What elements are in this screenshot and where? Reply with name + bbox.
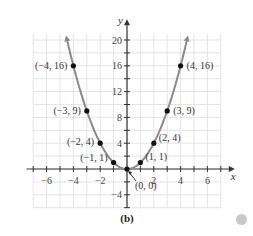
x-tick-label: 6 (205, 175, 210, 186)
curve-arrow-icon (184, 35, 190, 42)
data-point (151, 141, 156, 146)
y-tick-label: 20 (112, 35, 122, 46)
data-point (84, 108, 89, 113)
point-label: (3, 9) (173, 105, 195, 117)
x-tick-label: 4 (178, 175, 183, 186)
point-label: (−4, 16) (35, 60, 67, 72)
figure-caption: (b) (120, 212, 134, 225)
x-axis-label: x (230, 170, 236, 182)
y-axis-arrow-icon (124, 19, 130, 25)
point-label: (−1, 1) (80, 152, 107, 164)
point-label: (−3, 9) (53, 105, 80, 117)
data-point (165, 108, 170, 113)
point-label: (2, 4) (159, 132, 181, 144)
x-tick-label: −6 (41, 175, 52, 186)
y-tick-label: 16 (112, 60, 122, 71)
y-axis-label: y (117, 14, 123, 26)
point-label: (−2, 4) (67, 136, 94, 148)
data-point (98, 141, 103, 146)
indicator-dot (236, 214, 247, 225)
data-point (178, 63, 183, 68)
x-tick-label: −4 (68, 175, 79, 186)
y-tick-label: 4 (117, 138, 122, 149)
data-point (124, 166, 129, 171)
data-point (111, 160, 116, 165)
x-tick-label: −2 (95, 175, 106, 186)
y-tick-label: 8 (117, 112, 122, 123)
parabola-chart: xy−6−4−2246−448121620(−4, 16)(−3, 9)(−2,… (0, 0, 253, 236)
point-label: (1, 1) (145, 151, 167, 163)
data-point (71, 63, 76, 68)
y-tick-label: 12 (112, 86, 122, 97)
point-label: (0, 0) (135, 180, 157, 192)
data-point (138, 160, 143, 165)
curve-arrow-icon (64, 35, 70, 42)
point-label: (4, 16) (187, 60, 214, 72)
y-tick-label: −4 (111, 189, 122, 200)
